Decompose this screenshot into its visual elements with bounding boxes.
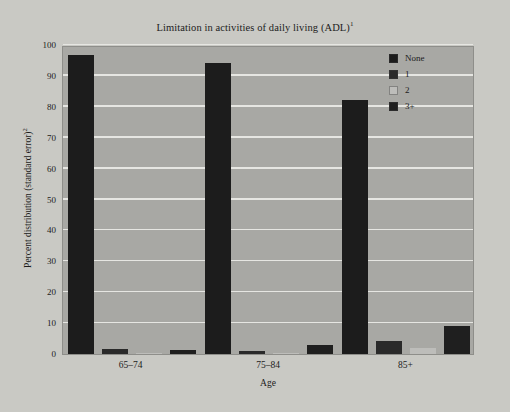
x-axis-tick-label: 85+ (345, 360, 465, 370)
bar (273, 353, 299, 354)
bar (342, 100, 368, 354)
y-axis-tick-label: 20 (18, 287, 56, 297)
y-axis-tick-label: 80 (18, 102, 56, 112)
y-axis-tick-label: 40 (18, 225, 56, 235)
bar (136, 353, 162, 354)
bar (170, 350, 196, 354)
y-axis-tick-label: 10 (18, 318, 56, 328)
figure: Limitation in activities of daily living… (0, 0, 510, 412)
legend-item[interactable]: 3+ (389, 98, 425, 114)
legend-swatch-icon (389, 54, 398, 63)
y-axis-tick-label: 0 (18, 349, 56, 359)
x-axis-tick-label: 75–84 (208, 360, 328, 370)
gridline (63, 322, 473, 324)
legend-item[interactable]: None (389, 50, 425, 66)
bar (102, 349, 128, 354)
x-axis-label: Age (62, 378, 474, 388)
y-axis-tick-label: 50 (18, 195, 56, 205)
y-axis-tick-label: 90 (18, 71, 56, 81)
y-axis-tick-label: 100 (18, 40, 56, 50)
y-axis-tick-label: 60 (18, 164, 56, 174)
bar (68, 55, 94, 354)
bar (444, 326, 470, 354)
legend-swatch-icon (389, 102, 398, 111)
x-axis-tick-label: 65–74 (71, 360, 191, 370)
y-axis-tick-label: 70 (18, 133, 56, 143)
y-axis-tick-label: 30 (18, 256, 56, 266)
bar (239, 351, 265, 354)
bar (205, 63, 231, 354)
legend-item[interactable]: 2 (389, 82, 425, 98)
gridline (63, 44, 473, 46)
legend-item-label: 1 (405, 70, 410, 79)
chart-title-footnote-marker: 1 (350, 20, 354, 28)
legend-swatch-icon (389, 86, 398, 95)
bar (410, 348, 436, 354)
legend-item-label: 2 (405, 86, 410, 95)
gridline (63, 136, 473, 138)
gridline (63, 291, 473, 293)
legend-item[interactable]: 1 (389, 66, 425, 82)
gridline (63, 198, 473, 200)
gridline (63, 229, 473, 231)
bar (307, 345, 333, 354)
gridline (63, 167, 473, 169)
legend-swatch-icon (389, 70, 398, 79)
chart-title-text: Limitation in activities of daily living… (156, 22, 350, 33)
bar (376, 341, 402, 354)
chart-title: Limitation in activities of daily living… (0, 20, 510, 33)
legend-item-label: None (405, 54, 425, 63)
legend: None123+ (389, 50, 425, 114)
gridline (63, 260, 473, 262)
legend-item-label: 3+ (405, 102, 415, 111)
y-axis-label-footnote-marker: 2 (21, 128, 28, 131)
